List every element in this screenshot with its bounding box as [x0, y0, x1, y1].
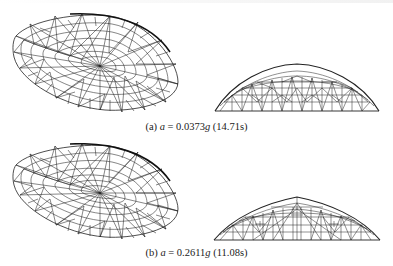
dome-oblique-view-a — [10, 12, 182, 116]
panel-b: (b) a = 0.2611g (11.08s) — [0, 133, 393, 266]
caption-value: 0.2611 — [177, 247, 206, 258]
caption-time: (14.71s) — [213, 121, 248, 132]
caption-time: (11.08s) — [213, 247, 247, 258]
caption-label: (a) — [145, 121, 157, 132]
caption-equals: = — [168, 247, 174, 258]
dome-side-view-a — [212, 62, 382, 114]
caption-b: (b) a = 0.2611g (11.08s) — [0, 247, 393, 258]
dome-oblique-view-b — [10, 143, 182, 243]
caption-equals: = — [168, 121, 174, 132]
dome-side-view-b — [211, 195, 383, 243]
caption-unit: g — [205, 121, 210, 132]
caption-label: (b) — [146, 247, 158, 258]
caption-value: 0.0373 — [176, 121, 205, 132]
caption-a: (a) a = 0.0373g (14.71s) — [0, 121, 393, 132]
caption-unit: g — [205, 247, 210, 258]
panel-a: (a) a = 0.0373g (14.71s) — [0, 0, 393, 133]
caption-variable: a — [160, 247, 165, 258]
caption-variable: a — [160, 121, 165, 132]
